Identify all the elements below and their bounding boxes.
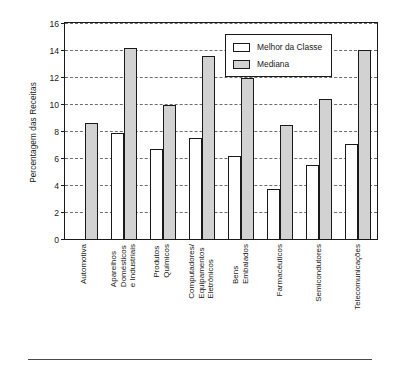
x-label-slot: ProdutosQuímicos (143, 240, 182, 350)
x-tick-label: AparelhosDomésticose Industriais (108, 244, 137, 287)
chart-legend: Melhor da Classe Mediana (225, 34, 332, 77)
bar-mediana (358, 50, 371, 239)
bar-group (104, 23, 143, 239)
bar-mediana (163, 105, 176, 239)
bar-group (182, 23, 221, 239)
x-label-slot: Farmacêuticos (260, 240, 299, 350)
legend-swatch-best-icon (233, 43, 250, 52)
y-axis-title: Percentagem das Receitas (29, 38, 38, 228)
bar-group (65, 23, 104, 239)
bar-mediana (280, 125, 293, 239)
x-label-slot: Computadores/EquipamentosEletrônicos (182, 240, 221, 350)
bar-best-da-classe (345, 144, 358, 239)
bar-best-da-classe (228, 156, 241, 239)
x-label-slot: AparelhosDomésticose Industriais (103, 240, 142, 350)
y-tick-label: 12 (46, 68, 65, 86)
bar-best-da-classe (150, 149, 163, 239)
y-tick-label: 0 (46, 230, 65, 248)
legend-label-best: Melhor da Classe (257, 42, 322, 52)
bar-group (143, 23, 182, 239)
y-tick-label: 8 (46, 122, 65, 140)
bar-mediana (319, 99, 332, 239)
bar-chart-figure: Percentagem das Receitas 0246810121416 M… (0, 0, 400, 374)
bar-mediana (124, 48, 137, 239)
x-tick-label: Farmacêuticos (275, 244, 285, 296)
y-tick-label: 16 (46, 14, 65, 32)
x-label-slot: Telecomunicações (339, 240, 378, 350)
x-tick-label: Automotiva (79, 244, 89, 284)
y-tick-label: 2 (46, 203, 65, 221)
legend-label-median: Mediana (257, 59, 289, 69)
x-axis-labels: AutomotivaAparelhosDomésticose Industria… (64, 240, 378, 350)
y-tick-label: 6 (46, 149, 65, 167)
y-tick-label: 4 (46, 176, 65, 194)
bar-mediana (85, 123, 98, 239)
bar-best-da-classe (189, 138, 202, 239)
legend-item-mediana: Mediana (233, 57, 322, 71)
legend-swatch-median-icon (233, 60, 250, 69)
y-tick-label: 14 (46, 41, 65, 59)
bar-mediana (202, 56, 215, 239)
bar-group (338, 23, 377, 239)
bar-best-da-classe (306, 165, 319, 239)
x-tick-label: Computadores/EquipamentosEletrônicos (187, 244, 216, 299)
footer-rule (28, 359, 372, 360)
bar-mediana (241, 78, 254, 239)
x-tick-label: BensEmbalados (231, 244, 250, 284)
x-label-slot: Automotiva (64, 240, 103, 350)
x-tick-label: ProdutosQuímicos (153, 244, 172, 278)
bar-best-da-classe (111, 133, 124, 239)
x-label-slot: BensEmbalados (221, 240, 260, 350)
plot-area: 0246810121416 Melhor da Classe Mediana (64, 22, 378, 240)
bar-best-da-classe (267, 189, 280, 239)
x-tick-label: Telecomunicações (354, 244, 364, 310)
legend-item-melhor-da-classe: Melhor da Classe (233, 40, 322, 54)
y-tick-label: 10 (46, 95, 65, 113)
x-label-slot: Semicondutores (300, 240, 339, 350)
x-tick-label: Semicondutores (314, 244, 324, 302)
